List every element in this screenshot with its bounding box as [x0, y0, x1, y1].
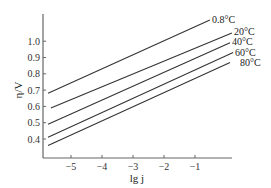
series-label: 40°C: [232, 36, 253, 47]
x-axis-label: lg j: [130, 172, 144, 184]
y-tick-label: 0.9: [28, 52, 41, 63]
series-line: [48, 62, 230, 145]
y-tick-label: 0.8: [28, 68, 41, 79]
series-label: 80°C: [240, 57, 261, 68]
y-tick-label: 0.6: [28, 101, 41, 112]
series-labels: 0.8°C20°C40°C60°C80°C: [212, 14, 261, 68]
series-label: 0.8°C: [212, 14, 235, 25]
x-tick-label: −1: [190, 161, 201, 172]
x-tick-label: −4: [97, 161, 108, 172]
y-tick-label: 0.7: [28, 85, 41, 96]
y-axis-label: η/V: [12, 82, 24, 99]
series-lines: [48, 20, 233, 146]
chart: 0.40.50.60.70.80.91.0−5−4−3−2−1 0.8°C20°…: [0, 0, 271, 188]
x-tick-label: −5: [66, 161, 77, 172]
y-tick-label: 0.4: [28, 134, 41, 145]
series-line: [48, 43, 230, 125]
series-line: [51, 33, 232, 108]
x-tick-label: −2: [159, 161, 170, 172]
y-tick-label: 0.5: [28, 117, 41, 128]
x-tick-label: −3: [128, 161, 139, 172]
series-line: [48, 53, 233, 138]
y-tick-label: 1.0: [28, 36, 41, 47]
axes: 0.40.50.60.70.80.91.0−5−4−3−2−1: [28, 14, 233, 172]
